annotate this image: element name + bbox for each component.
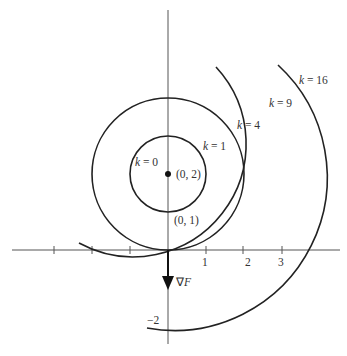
x-tick-label-2: 2 (245, 256, 251, 268)
label-point-0-1: (0, 1) (174, 214, 199, 227)
label-k1: k = 1 (203, 140, 226, 152)
label-gradient: ∇F (175, 276, 192, 288)
x-tick-label-1: 1 (202, 256, 208, 268)
label-center: (0, 2) (176, 168, 201, 181)
label-k4: k = 4 (237, 119, 260, 131)
level-curve-diagram: k = 0 (0, 2) k = 1 k = 4 k = 9 k = 16 (0… (0, 0, 347, 356)
gradient-arrow-head (162, 276, 174, 290)
label-k16: k = 16 (299, 74, 328, 86)
level-curve-k16 (147, 65, 327, 330)
y-tick-label-neg2: −2 (147, 314, 159, 326)
label-k9: k = 9 (269, 97, 292, 109)
x-tick-label-3: 3 (278, 256, 284, 268)
label-k0: k = 0 (135, 156, 158, 168)
center-point (165, 171, 171, 177)
